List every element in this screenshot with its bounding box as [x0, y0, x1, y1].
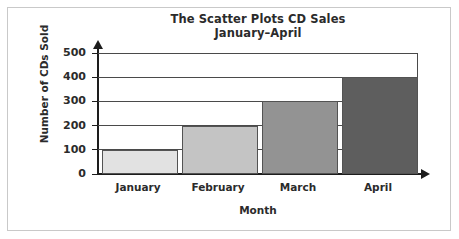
y-axis-tick-label: 0 — [52, 167, 86, 181]
chart-title-line2: January–April — [98, 27, 418, 41]
x-axis-label-february: February — [178, 181, 258, 193]
x-axis-label-january: January — [98, 181, 178, 193]
y-axis-tick-label: 200 — [52, 119, 86, 133]
y-axis-tick-label: 100 — [52, 143, 86, 157]
y-axis-tick-label-text: 200 — [52, 119, 86, 132]
x-axis-label-march: March — [258, 181, 338, 193]
y-axis-tick-label-text: 400 — [52, 70, 86, 83]
y-axis-tick-label-text: 0 — [52, 167, 86, 180]
gridline — [98, 53, 418, 54]
y-axis-tick-label-text: 100 — [52, 143, 86, 156]
y-axis-tick-label: 300 — [52, 94, 86, 108]
bar-march — [262, 101, 338, 174]
x-axis-arrow-icon — [421, 169, 430, 179]
chart-title: The Scatter Plots CD Sales January–April — [98, 13, 418, 40]
bar-january — [102, 150, 178, 174]
chart-title-line1: The Scatter Plots CD Sales — [171, 12, 346, 26]
y-axis-arrow-icon — [93, 40, 103, 49]
bar-april — [342, 77, 418, 174]
x-axis-title: Month — [98, 204, 418, 216]
y-axis-title: Number of CDs Sold — [38, 23, 50, 145]
bar-chart: The Scatter Plots CD Sales January–April… — [0, 0, 459, 239]
plot-area — [98, 53, 418, 174]
y-axis-tick-label-text: 500 — [52, 46, 86, 59]
chart-screenshot: The Scatter Plots CD Sales January–April… — [0, 0, 459, 239]
y-axis-tick-label: 400 — [52, 70, 86, 84]
bar-february — [182, 126, 258, 174]
y-axis-tick-label: 500 — [52, 46, 86, 60]
x-axis-label-april: April — [338, 181, 418, 193]
y-axis-tick-label-text: 300 — [52, 94, 86, 107]
